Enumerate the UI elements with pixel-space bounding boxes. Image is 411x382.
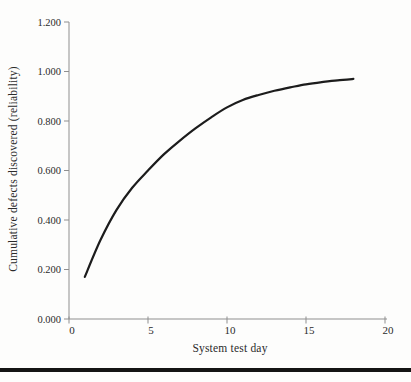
- defects-curve: [85, 79, 354, 277]
- reliability-growth-figure: 0.0000.2000.4000.6000.8001.0001.20005101…: [0, 0, 411, 382]
- line-chart-canvas: 0.0000.2000.4000.6000.8001.0001.20005101…: [0, 0, 411, 382]
- x-tick-label: 15: [304, 324, 316, 336]
- y-tick-label: 0.800: [37, 116, 61, 127]
- y-tick-label: 0.200: [37, 264, 61, 275]
- x-tick-label: 5: [148, 324, 154, 336]
- x-axis-title: System test day: [69, 342, 391, 354]
- y-tick-label: 1.000: [37, 66, 61, 77]
- bottom-rule-divider: [0, 368, 411, 372]
- x-tick-label: 10: [225, 324, 237, 336]
- x-tick-label: 20: [383, 324, 395, 336]
- y-tick-label: 0.000: [37, 314, 61, 325]
- y-axis-title: Cumulative defects discovered (reliabili…: [7, 19, 19, 319]
- y-tick-label: 0.600: [37, 165, 61, 176]
- x-tick-label: 0: [69, 324, 75, 336]
- y-tick-label: 0.400: [37, 215, 61, 226]
- y-tick-label: 1.200: [37, 17, 61, 28]
